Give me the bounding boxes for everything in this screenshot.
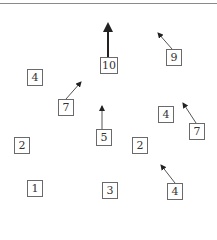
arrow-4c — [161, 165, 175, 183]
node-2-left: 2 — [14, 137, 30, 154]
node-10: 10 — [100, 57, 118, 74]
arrow-7b — [183, 103, 196, 123]
node-7-left: 7 — [58, 99, 74, 116]
arrow-7a — [66, 82, 81, 99]
node-4-right: 4 — [158, 106, 174, 123]
node-4-bottom: 4 — [167, 183, 183, 200]
node-5: 5 — [96, 129, 112, 146]
node-7-right: 7 — [189, 123, 205, 140]
node-9: 9 — [166, 49, 182, 66]
node-4-upper-left: 4 — [27, 69, 43, 86]
node-3: 3 — [102, 182, 118, 199]
node-2-center: 2 — [132, 137, 148, 154]
arrow-9 — [158, 33, 172, 49]
node-1: 1 — [27, 180, 43, 197]
